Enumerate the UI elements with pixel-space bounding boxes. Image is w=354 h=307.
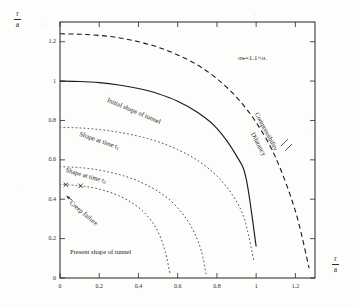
figure-canvas: r a r a <box>0 0 354 307</box>
y-tick-label: 0.6 <box>40 156 56 162</box>
x-tick-label: 1.2 <box>290 283 300 289</box>
y-axis-ticks <box>60 42 315 278</box>
y-tick-label: 0 <box>40 275 56 281</box>
x-tick-label: 1 <box>251 283 261 289</box>
x-tick-label: 0.6 <box>173 283 183 289</box>
y-tick-label: 0.2 <box>40 235 56 241</box>
compressibility-dilatancy-tie <box>281 139 292 151</box>
stress-ratio-annotation: σₕ=1.1×σᵥ <box>238 54 267 62</box>
y-tick-label: 0.4 <box>40 196 56 202</box>
curve-compressibility-dilatancy <box>60 34 309 268</box>
curve-shape-t2 <box>60 167 206 274</box>
curve-shape-t1 <box>60 127 254 262</box>
x-tick-label: 0.4 <box>133 283 143 289</box>
y-tick-label: 1.2 <box>40 38 56 44</box>
plot-frame <box>60 22 315 278</box>
x-tick-label: 0 <box>55 283 65 289</box>
y-tick-label: 1 <box>40 78 56 84</box>
annotation-present-shape: Present shape of tunnel <box>70 248 131 255</box>
x-tick-label: 0.2 <box>94 283 104 289</box>
curve-present-shape <box>60 184 170 275</box>
y-tick-label: 0.8 <box>40 117 56 123</box>
creep-failure-marker <box>78 184 82 188</box>
plot-area <box>0 0 354 307</box>
x-tick-label: 0.8 <box>212 283 222 289</box>
